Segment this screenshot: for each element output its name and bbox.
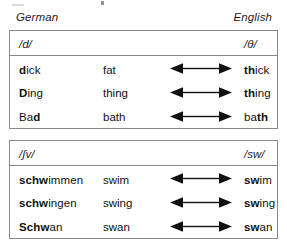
table-shv-sw: /ʃv/ /sw/ schwimmen swim: [9, 140, 278, 239]
english-word-thick: thick: [244, 64, 269, 76]
double-headed-arrow-icon: [170, 221, 232, 232]
header-cell-german-phoneme: /ʃv/: [10, 144, 103, 162]
cell-german-word: Schwan: [10, 217, 103, 235]
double-headed-arrow-icon: [170, 197, 232, 208]
german-word-ding: Ding: [19, 87, 43, 99]
table-row: Schwan swan swan: [10, 214, 277, 238]
german-word-bad: Bad: [19, 111, 40, 123]
scan-artifact-speck: [101, 1, 104, 5]
cell-arrow: [166, 87, 236, 98]
cell-german-word: Bad: [10, 107, 103, 125]
cell-arrow: [166, 111, 236, 122]
column-header-english: English: [234, 11, 272, 23]
english-word-bath: bath: [244, 111, 268, 123]
english-word-swim: swim: [244, 174, 272, 186]
header-cell-english-phoneme: /sw/: [236, 144, 277, 162]
cell-arrow: [166, 63, 236, 74]
cell-gloss: bath: [103, 107, 166, 125]
german-word-schwingen: schwingen: [19, 197, 77, 209]
english-word-thing: thing: [244, 87, 271, 99]
scan-artifact-smudge: [12, 4, 24, 6]
cell-arrow: [166, 221, 236, 232]
double-headed-arrow-icon: [170, 87, 232, 98]
table-row: schwimmen swim swim: [10, 166, 277, 190]
double-headed-arrow-icon: [170, 173, 232, 184]
double-headed-arrow-icon: [170, 63, 232, 74]
english-word-swing: swing: [244, 197, 275, 209]
cell-german-word: Ding: [10, 83, 103, 101]
cell-german-word: schwimmen: [10, 170, 103, 188]
cell-gloss: swim: [103, 170, 166, 188]
cell-gloss: swing: [103, 193, 166, 211]
double-headed-arrow-icon: [170, 111, 232, 122]
cell-english-word: thing: [236, 83, 277, 101]
cell-english-word: swing: [236, 193, 277, 211]
header-cell-english-phoneme: /θ/: [236, 34, 277, 52]
cell-arrow: [166, 197, 236, 208]
cell-german-word: dick: [10, 60, 103, 78]
table-d-theta: /d/ /θ/ dick fat thick: [9, 30, 278, 129]
contrastive-phonology-table-figure: German English /d/ /θ/ dick fat: [0, 0, 287, 252]
german-word-schwan: Schwan: [19, 221, 62, 233]
german-word-dick: dick: [19, 64, 40, 76]
column-headers: German English: [9, 0, 278, 30]
cell-gloss: thing: [103, 83, 166, 101]
table-header-row: /d/ /θ/: [10, 31, 277, 56]
english-word-swan: swan: [244, 221, 273, 233]
german-word-schwimmen: schwimmen: [19, 174, 83, 186]
table-row: schwingen swing swing: [10, 190, 277, 214]
table-row: Ding thing thing: [10, 80, 277, 104]
table-row: Bad bath bath: [10, 104, 277, 128]
cell-gloss: fat: [103, 60, 166, 78]
cell-gloss: swan: [103, 217, 166, 235]
cell-german-word: schwingen: [10, 193, 103, 211]
cell-english-word: bath: [236, 107, 277, 125]
table-row: dick fat thick: [10, 56, 277, 80]
header-cell-german-phoneme: /d/: [10, 34, 103, 52]
column-header-german: German: [16, 11, 58, 23]
cell-english-word: swim: [236, 170, 277, 188]
cell-english-word: thick: [236, 60, 277, 78]
cell-english-word: swan: [236, 217, 277, 235]
table-header-row: /ʃv/ /sw/: [10, 141, 277, 166]
cell-arrow: [166, 173, 236, 184]
